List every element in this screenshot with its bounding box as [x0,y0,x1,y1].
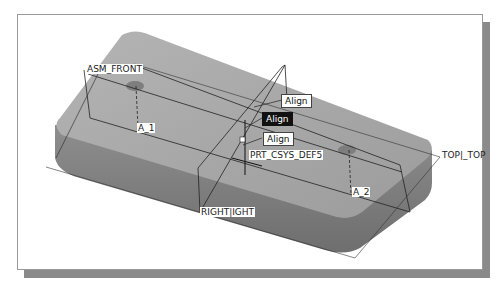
axis-label-a2[interactable]: A_2 [352,187,370,197]
constraint-align-2[interactable]: Align [262,112,293,126]
constraint-align-1[interactable]: Align [281,94,312,108]
csys-x-marker [240,137,245,142]
csys-label[interactable]: PRT_CSYS_DEF5 [249,150,323,160]
datum-label-right[interactable]: RIGHT|IGHT [200,207,255,217]
boss-right [338,145,356,155]
boss-left [126,81,144,91]
datum-label-asm-front[interactable]: ASM_FRONT [86,64,143,74]
datum-label-top[interactable]: TOP|_TOP [441,150,487,160]
axis-label-a1[interactable]: A_1 [137,123,155,133]
model-viewport[interactable] [0,0,502,289]
constraint-align-3[interactable]: Align [263,132,294,146]
